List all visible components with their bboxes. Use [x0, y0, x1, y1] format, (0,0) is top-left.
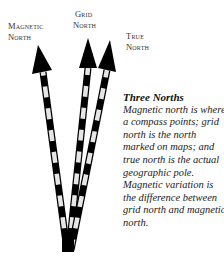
- caption-title: Three Norths: [123, 91, 224, 104]
- caption: Three Norths Magnetic north is where a c…: [123, 91, 224, 230]
- caption-body: Magnetic north is where a compass points…: [123, 104, 224, 228]
- magnetic-north-arrow: [32, 45, 67, 250]
